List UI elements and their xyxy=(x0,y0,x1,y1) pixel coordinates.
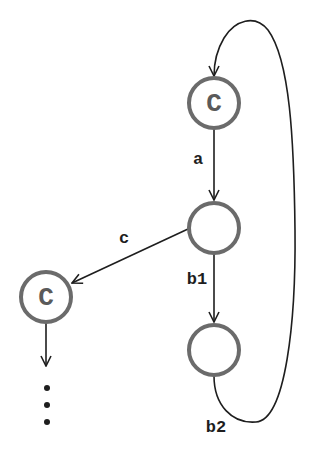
state-diagram: a c b1 b2 C C xyxy=(0,0,309,458)
ellipsis-dot-2 xyxy=(44,402,50,408)
node-n2 xyxy=(189,203,239,253)
edge-continuation xyxy=(44,323,50,425)
edge-c-line xyxy=(72,229,188,283)
edge-b1: b1 xyxy=(187,254,214,322)
edge-label-b2: b2 xyxy=(206,418,226,437)
edge-a: a xyxy=(193,129,214,200)
edge-label-b1: b1 xyxy=(187,270,207,289)
node-n4 xyxy=(189,325,239,375)
edge-label-a: a xyxy=(193,150,203,169)
node-n1: C xyxy=(189,78,239,128)
edge-label-c: c xyxy=(119,229,129,248)
ellipsis-dot-3 xyxy=(44,419,50,425)
node-label: C xyxy=(206,89,222,119)
node-circle xyxy=(189,203,239,253)
node-n3: C xyxy=(21,272,71,322)
node-circle xyxy=(189,325,239,375)
ellipsis-dot-1 xyxy=(44,385,50,391)
edge-c: c xyxy=(72,229,188,284)
node-label: C xyxy=(38,283,54,313)
